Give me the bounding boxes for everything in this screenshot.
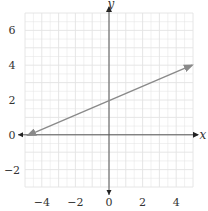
x-tick-label: 0: [106, 196, 113, 209]
x-axis-label: x: [200, 128, 207, 142]
y-tick-label: −2: [4, 164, 20, 177]
y-axis-label: y: [107, 0, 115, 11]
y-axis-arrow-down: [107, 190, 112, 195]
y-tick-label: 4: [9, 59, 16, 72]
x-tick-label: 2: [139, 196, 146, 209]
y-tick-label: 2: [9, 94, 16, 107]
x-axis-arrow-left: [18, 132, 23, 137]
chart: −4−20246420−2xy: [0, 0, 208, 211]
y-tick-label: 0: [9, 129, 16, 142]
y-tick-label: 6: [9, 24, 16, 37]
x-tick-label: −4: [34, 196, 50, 209]
x-tick-label: −2: [67, 196, 83, 209]
x-tick-label: 4: [173, 196, 180, 209]
